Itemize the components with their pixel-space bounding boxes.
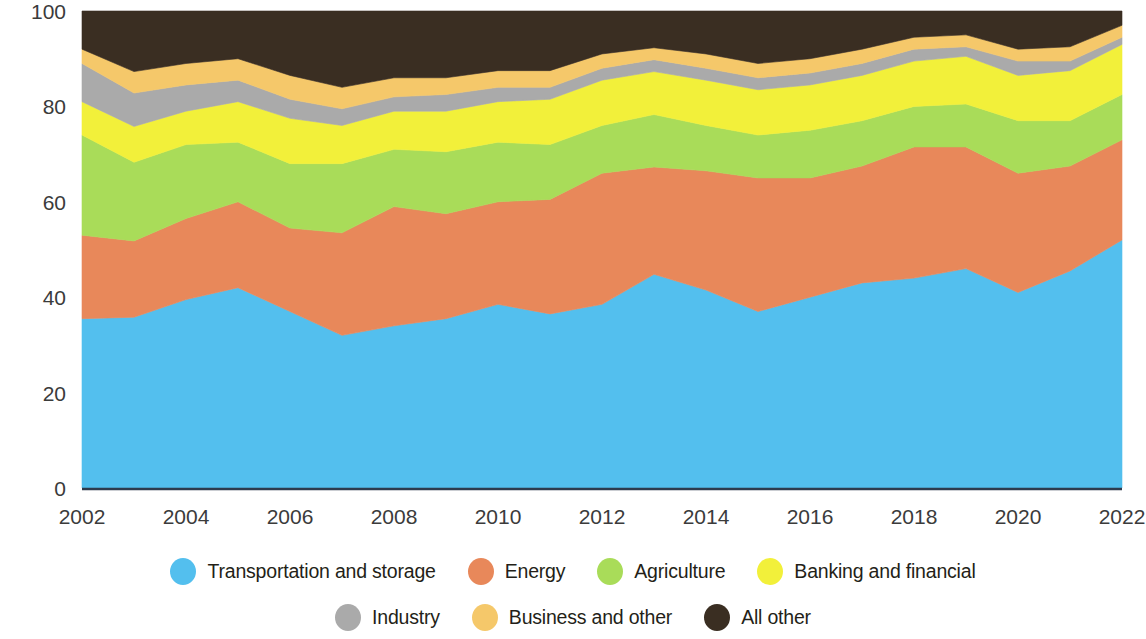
y-tick-label: 60 xyxy=(43,191,66,214)
legend-dot-icon xyxy=(704,604,730,631)
x-tick-label: 2018 xyxy=(891,505,938,528)
legend-item-label: All other xyxy=(741,606,811,629)
legend-item-banking-and-financial[interactable]: Banking and financial xyxy=(757,558,975,585)
x-tick-label: 2002 xyxy=(59,505,106,528)
legend-dot-icon xyxy=(468,558,494,585)
x-tick-label: 2008 xyxy=(371,505,418,528)
y-tick-label: 40 xyxy=(43,286,66,309)
x-tick-label: 2012 xyxy=(579,505,626,528)
legend-item-all-other[interactable]: All other xyxy=(704,604,811,631)
legend-item-label: Agriculture xyxy=(634,560,725,583)
x-tick-label: 2010 xyxy=(475,505,522,528)
x-tick-label: 2006 xyxy=(267,505,314,528)
x-tick-label: 2014 xyxy=(683,505,730,528)
legend-row-primary: Transportation and storageEnergyAgricult… xyxy=(0,554,1146,588)
legend-dot-icon xyxy=(472,604,498,631)
legend-dot-icon xyxy=(335,604,361,631)
stacked-area-chart: 020406080100 200220042006200820102012201… xyxy=(0,0,1146,639)
legend-item-label: Energy xyxy=(505,560,566,583)
legend-row-secondary: IndustryBusiness and otherAll other xyxy=(0,600,1146,634)
legend-item-energy[interactable]: Energy xyxy=(468,558,566,585)
x-tick-label: 2016 xyxy=(787,505,834,528)
legend-item-label: Banking and financial xyxy=(794,560,975,583)
legend-item-label: Business and other xyxy=(509,606,672,629)
legend-item-business-and-other[interactable]: Business and other xyxy=(472,604,672,631)
y-axis-tick-labels: 020406080100 xyxy=(31,0,66,500)
chart-plot-area: 020406080100 200220042006200820102012201… xyxy=(0,0,1146,639)
y-tick-label: 20 xyxy=(43,382,66,405)
legend-dot-icon xyxy=(757,558,783,585)
area-series-group xyxy=(82,11,1122,488)
y-tick-label: 0 xyxy=(54,477,66,500)
legend-item-agriculture[interactable]: Agriculture xyxy=(597,558,725,585)
x-tick-label: 2022 xyxy=(1099,505,1146,528)
y-tick-label: 100 xyxy=(31,0,66,23)
legend-item-industry[interactable]: Industry xyxy=(335,604,440,631)
legend-item-transportation-and-storage[interactable]: Transportation and storage xyxy=(170,558,435,585)
x-tick-label: 2020 xyxy=(995,505,1042,528)
legend-dot-icon xyxy=(597,558,623,585)
y-tick-label: 80 xyxy=(43,95,66,118)
legend-item-label: Industry xyxy=(372,606,440,629)
x-tick-label: 2004 xyxy=(163,505,210,528)
legend-dot-icon xyxy=(170,558,196,585)
legend-item-label: Transportation and storage xyxy=(207,560,435,583)
x-axis-tick-labels: 2002200420062008201020122014201620182020… xyxy=(59,505,1146,528)
